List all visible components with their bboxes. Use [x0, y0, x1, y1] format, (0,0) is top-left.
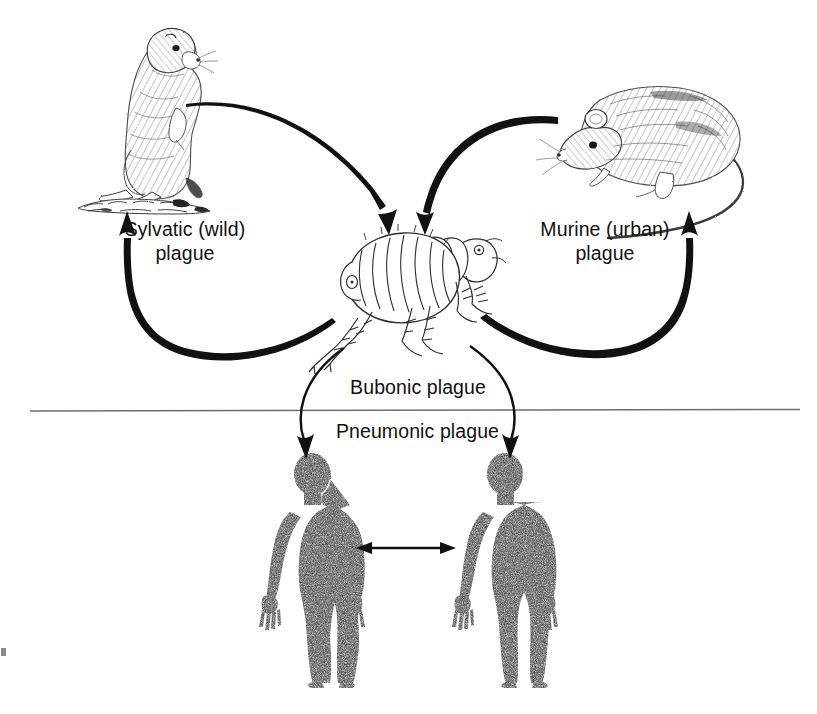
label-pneumonic-plague: Pneumonic plague — [300, 420, 535, 444]
arrow-human-to-human — [356, 542, 456, 554]
label-sylvatic-plague: Sylvatic (wild) plague — [90, 218, 280, 266]
human-silhouette-right — [452, 453, 558, 688]
horizontal-divider — [30, 410, 800, 412]
label-bubonic-plague: Bubonic plague — [318, 376, 518, 400]
rat-illustration — [536, 87, 743, 239]
label-murine-plague: Murine (urban) plague — [505, 218, 705, 266]
diagram-canvas — [0, 0, 817, 714]
plague-transmission-diagram: Sylvatic (wild) plague Murine (urban) pl… — [0, 0, 817, 714]
prairie-dog-illustration — [78, 28, 218, 214]
scan-edge-artifact — [1, 648, 6, 656]
human-silhouette-left — [259, 453, 365, 688]
arrow-prairie-dog-to-flea — [186, 102, 397, 235]
